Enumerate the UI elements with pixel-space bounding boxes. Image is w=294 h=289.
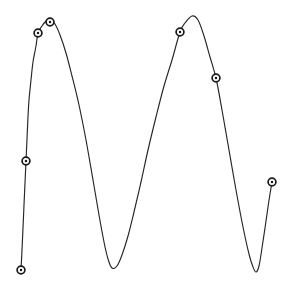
- marker-center-dot: [215, 77, 218, 80]
- data-point-marker[interactable]: [268, 178, 276, 186]
- marker-center-dot: [179, 31, 182, 34]
- marker-center-dot: [37, 32, 40, 35]
- data-point-marker[interactable]: [212, 74, 220, 82]
- waveform-line: [21, 16, 272, 272]
- marker-center-dot: [25, 160, 28, 163]
- marker-center-dot: [20, 269, 23, 272]
- data-point-marker[interactable]: [176, 28, 184, 36]
- data-point-marker[interactable]: [17, 266, 25, 274]
- waveform-plot: [0, 0, 294, 289]
- data-point-marker[interactable]: [22, 157, 30, 165]
- data-point-marker[interactable]: [34, 29, 42, 37]
- chart-canvas: [0, 0, 294, 289]
- curve-layer: [21, 16, 272, 272]
- marker-center-dot: [49, 21, 52, 24]
- data-point-marker[interactable]: [46, 18, 54, 26]
- marker-center-dot: [271, 181, 274, 184]
- data-marker-layer: [17, 18, 276, 274]
